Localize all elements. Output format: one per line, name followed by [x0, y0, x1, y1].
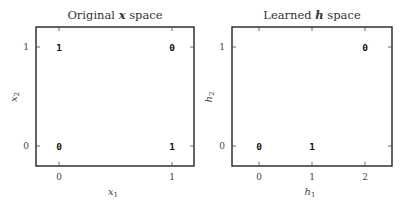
- figure: Original x space 0 1 0 1 x1 x2 0 1 1 0 L…: [0, 0, 404, 207]
- data-point-label: 0: [362, 42, 368, 53]
- data-point-label: 1: [56, 42, 62, 53]
- data-point-label: 1: [309, 141, 315, 152]
- x-ticks: [59, 27, 172, 166]
- plot-original-x-space: Original x space 0 1 0 1 x1 x2 0 1 1 0: [8, 8, 194, 199]
- data-point-label: 1: [169, 141, 175, 152]
- x-axis-label: h1: [305, 186, 316, 199]
- data-point-label: 0: [56, 141, 62, 152]
- y-ticks: [232, 47, 392, 146]
- x-tick-label: 2: [362, 172, 368, 182]
- y-axis-label: x2: [8, 92, 21, 102]
- x-tick-label: 0: [256, 172, 262, 182]
- x-axis-label: x1: [108, 186, 118, 199]
- y-axis-label: h2: [203, 92, 216, 103]
- x-tick-label: 1: [169, 172, 175, 182]
- y-tick-label: 1: [219, 42, 225, 52]
- plot-title: Original x space: [67, 8, 162, 22]
- x-tick-label: 0: [56, 172, 62, 182]
- y-tick-label: 1: [23, 42, 29, 52]
- data-point-label: 0: [169, 42, 175, 53]
- y-tick-label: 0: [23, 141, 29, 151]
- plot-title: Learned h space: [263, 8, 361, 22]
- data-point-label: 0: [256, 141, 262, 152]
- y-tick-label: 0: [219, 141, 225, 151]
- y-ticks: [36, 47, 194, 146]
- x-tick-label: 1: [309, 172, 315, 182]
- plot-learned-h-space: Learned h space 0 1 2 0 1 h1 h2 0 1 0: [203, 8, 392, 199]
